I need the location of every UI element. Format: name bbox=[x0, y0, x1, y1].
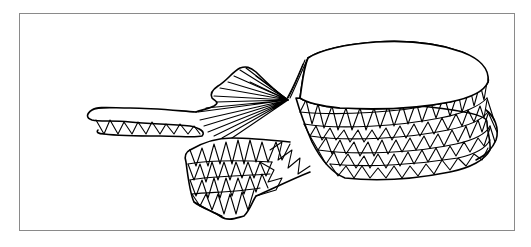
transverse-process bbox=[88, 108, 204, 137]
pedicle-block bbox=[185, 138, 310, 219]
mesh-diagram bbox=[0, 0, 531, 247]
lamina-fan bbox=[196, 67, 288, 138]
